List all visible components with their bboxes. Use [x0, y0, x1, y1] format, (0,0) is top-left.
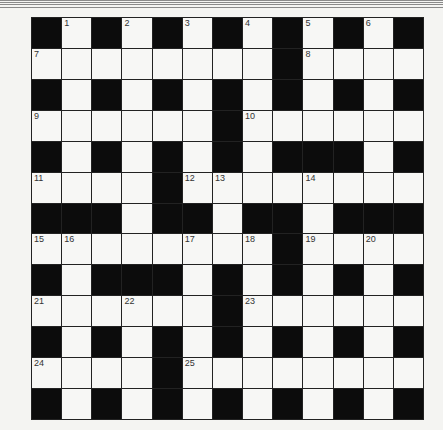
grid-cell[interactable] — [62, 358, 91, 388]
grid-cell[interactable] — [183, 389, 212, 419]
grid-cell[interactable] — [62, 173, 91, 203]
grid-cell[interactable] — [243, 358, 272, 388]
grid-cell[interactable] — [364, 80, 393, 110]
grid-cell[interactable] — [364, 296, 393, 326]
grid-cell[interactable]: 2 — [122, 18, 151, 48]
grid-cell[interactable] — [243, 80, 272, 110]
grid-cell[interactable] — [183, 327, 212, 357]
grid-cell[interactable] — [183, 111, 212, 141]
grid-cell[interactable] — [62, 111, 91, 141]
grid-cell[interactable]: 18 — [243, 234, 272, 264]
grid-cell[interactable] — [334, 173, 363, 203]
grid-cell[interactable]: 15 — [32, 234, 61, 264]
grid-cell[interactable] — [273, 296, 302, 326]
grid-cell[interactable] — [92, 234, 121, 264]
grid-cell[interactable] — [334, 296, 363, 326]
grid-cell[interactable] — [62, 49, 91, 79]
grid-cell[interactable] — [213, 204, 242, 234]
grid-cell[interactable] — [334, 111, 363, 141]
grid-cell[interactable] — [122, 111, 151, 141]
grid-cell[interactable] — [153, 234, 182, 264]
grid-cell[interactable] — [243, 327, 272, 357]
grid-cell[interactable] — [303, 80, 332, 110]
grid-cell[interactable] — [364, 49, 393, 79]
grid-cell[interactable] — [303, 204, 332, 234]
grid-cell[interactable] — [92, 49, 121, 79]
grid-cell[interactable]: 13 — [213, 173, 242, 203]
grid-cell[interactable] — [183, 49, 212, 79]
grid-cell[interactable] — [364, 389, 393, 419]
grid-cell[interactable] — [62, 296, 91, 326]
grid-cell[interactable] — [122, 358, 151, 388]
grid-cell[interactable]: 6 — [364, 18, 393, 48]
grid-cell[interactable] — [122, 80, 151, 110]
grid-cell[interactable] — [243, 142, 272, 172]
grid-cell[interactable] — [394, 358, 423, 388]
grid-cell[interactable]: 7 — [32, 49, 61, 79]
grid-cell[interactable] — [303, 296, 332, 326]
grid-cell[interactable] — [122, 204, 151, 234]
grid-cell[interactable]: 22 — [122, 296, 151, 326]
grid-cell[interactable] — [62, 142, 91, 172]
grid-cell[interactable] — [364, 358, 393, 388]
grid-cell[interactable] — [243, 49, 272, 79]
grid-cell[interactable] — [213, 358, 242, 388]
grid-cell[interactable] — [92, 296, 121, 326]
grid-cell[interactable] — [213, 49, 242, 79]
grid-cell[interactable] — [122, 327, 151, 357]
grid-cell[interactable]: 21 — [32, 296, 61, 326]
grid-cell[interactable] — [62, 80, 91, 110]
grid-cell[interactable] — [364, 111, 393, 141]
grid-cell[interactable]: 12 — [183, 173, 212, 203]
grid-cell[interactable] — [334, 358, 363, 388]
grid-cell[interactable] — [334, 234, 363, 264]
grid-cell[interactable] — [153, 111, 182, 141]
grid-cell[interactable] — [303, 327, 332, 357]
grid-cell[interactable] — [183, 296, 212, 326]
grid-cell[interactable] — [92, 111, 121, 141]
grid-cell[interactable]: 11 — [32, 173, 61, 203]
grid-cell[interactable] — [394, 49, 423, 79]
grid-cell[interactable] — [62, 265, 91, 295]
grid-cell[interactable] — [243, 265, 272, 295]
grid-cell[interactable] — [364, 173, 393, 203]
grid-cell[interactable] — [92, 173, 121, 203]
grid-cell[interactable] — [394, 234, 423, 264]
grid-cell[interactable] — [303, 265, 332, 295]
grid-cell[interactable] — [183, 265, 212, 295]
grid-cell[interactable] — [303, 111, 332, 141]
grid-cell[interactable] — [394, 296, 423, 326]
grid-cell[interactable] — [364, 327, 393, 357]
grid-cell[interactable] — [122, 49, 151, 79]
grid-cell[interactable]: 3 — [183, 18, 212, 48]
grid-cell[interactable]: 14 — [303, 173, 332, 203]
grid-cell[interactable] — [334, 49, 363, 79]
grid-cell[interactable]: 23 — [243, 296, 272, 326]
grid-cell[interactable] — [243, 173, 272, 203]
grid-cell[interactable] — [122, 173, 151, 203]
grid-cell[interactable] — [153, 296, 182, 326]
grid-cell[interactable]: 24 — [32, 358, 61, 388]
grid-cell[interactable] — [92, 358, 121, 388]
grid-cell[interactable] — [364, 265, 393, 295]
grid-cell[interactable]: 20 — [364, 234, 393, 264]
grid-cell[interactable]: 5 — [303, 18, 332, 48]
grid-cell[interactable]: 9 — [32, 111, 61, 141]
grid-cell[interactable] — [273, 173, 302, 203]
grid-cell[interactable]: 4 — [243, 18, 272, 48]
grid-cell[interactable] — [243, 389, 272, 419]
grid-cell[interactable]: 17 — [183, 234, 212, 264]
grid-cell[interactable] — [153, 49, 182, 79]
grid-cell[interactable] — [394, 173, 423, 203]
grid-cell[interactable]: 10 — [243, 111, 272, 141]
grid-cell[interactable]: 8 — [303, 49, 332, 79]
grid-cell[interactable]: 25 — [183, 358, 212, 388]
grid-cell[interactable] — [62, 327, 91, 357]
grid-cell[interactable] — [62, 389, 91, 419]
grid-cell[interactable]: 16 — [62, 234, 91, 264]
grid-cell[interactable]: 1 — [62, 18, 91, 48]
grid-cell[interactable] — [273, 111, 302, 141]
grid-cell[interactable] — [303, 389, 332, 419]
grid-cell[interactable] — [122, 142, 151, 172]
grid-cell[interactable] — [122, 234, 151, 264]
